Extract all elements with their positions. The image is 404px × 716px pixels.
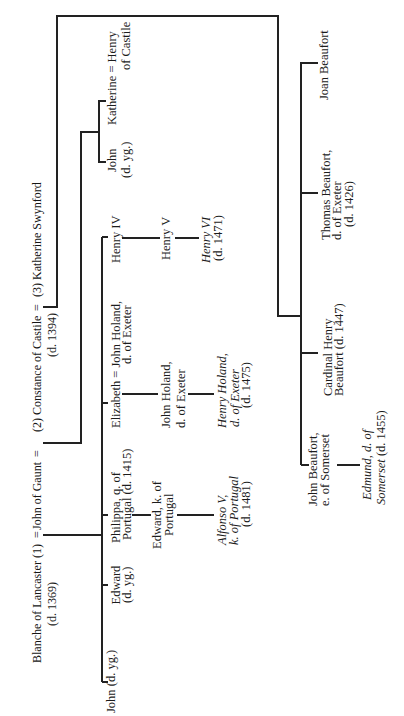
- constance-connector: [80, 131, 82, 444]
- john-dyg-constance-name: John: [107, 148, 118, 172]
- marriage-sign-2: =: [30, 450, 44, 457]
- blanche-descent-line: [43, 534, 102, 536]
- edward-to-alfonso-line: [177, 514, 214, 516]
- constance-of-castile: (2) Constance of Castile: [30, 316, 44, 432]
- edward-dyg-note: (d. yg.): [122, 567, 133, 603]
- elizabeth-to-john-holand-line: [122, 393, 158, 395]
- katherine-swynford: (3) Katherine Swynford: [30, 182, 44, 297]
- alfonso-line-1: Alfonso V,: [217, 495, 228, 545]
- edward-portugal-line-2: Portugal: [164, 494, 175, 536]
- john-beaufort-line-1: John Beaufort,: [308, 432, 319, 506]
- katherine-line-1: Katherine = Henry: [107, 31, 118, 125]
- constance-death-date: (d. 1394): [45, 313, 59, 357]
- tick-philippa: [102, 514, 108, 516]
- blanche-death-date: (d. 1369): [45, 582, 59, 626]
- tick-john-constance: [99, 161, 106, 163]
- edmund-title: Somerset: [374, 459, 388, 505]
- tick-katherine: [99, 100, 106, 102]
- philippa-line-2: Portugal (d. 1415): [122, 449, 133, 540]
- tick-henry-iv: [102, 236, 108, 238]
- blanche-of-lancaster: Blanche of Lancaster (1): [30, 544, 44, 663]
- john-to-henry-holand-line: [188, 393, 214, 395]
- henry-holand-death: (d. 1475): [241, 362, 252, 408]
- henry-beaufort-line-2: Beaufort (d. 1447): [334, 303, 345, 396]
- john-holand-line-1: John Holand,: [161, 361, 172, 428]
- henry-vi-death: (d. 1471): [213, 215, 224, 261]
- swynford-frame-3: [277, 15, 279, 317]
- henry-v: Henry V: [161, 217, 172, 260]
- beaufort-children-spine: [300, 63, 302, 466]
- henry-holand-line-1: Henry Holand,: [217, 353, 228, 428]
- philippa-to-edward-line: [132, 514, 151, 516]
- tick-elizabeth: [102, 402, 108, 404]
- constance-drop: [80, 131, 99, 133]
- swynford-frame-1: [56, 15, 58, 308]
- marriage-sign-3: =: [30, 304, 44, 311]
- john-of-gaunt: John of Gaunt: [30, 462, 44, 530]
- edmund-line-1: Edmund, d. of: [362, 430, 373, 500]
- henry-iv-to-henry-v-line: [122, 237, 160, 239]
- henry-vi: Henry VI: [201, 217, 212, 263]
- edmund-line-2: Somerset (d. 1455): [376, 410, 387, 505]
- constance-children-spine: [98, 100, 100, 163]
- thomas-beaufort-death: (d. 1426): [344, 181, 355, 227]
- genealogy-tree: Blanche of Lancaster (1) = John of Gaunt…: [0, 0, 404, 716]
- john-beaufort-to-edmund-line: [337, 464, 360, 466]
- edmund-death: (d. 1455): [374, 410, 388, 456]
- john-dyg-constance-note: (d. yg.): [121, 142, 132, 178]
- tick-john-beaufort: [301, 464, 309, 466]
- blanche-children-spine: [101, 237, 103, 682]
- alfonso-line-2: k. of Portugal: [229, 476, 240, 545]
- swynford-drop: [277, 315, 302, 317]
- john-holand-line-2: d. of Exeter: [176, 369, 187, 428]
- katherine-line-2: of Castile: [121, 22, 132, 70]
- elizabeth-line-2: d. of Exeter: [122, 305, 133, 364]
- tick-henry-beaufort: [301, 352, 318, 354]
- tick-john: [102, 681, 108, 683]
- alfonso-death: (d. 1481): [241, 481, 252, 527]
- tick-edward: [102, 584, 108, 586]
- tick-joan: [301, 62, 318, 64]
- swynford-frame-2: [56, 15, 279, 17]
- henry-v-to-henry-vi-line: [175, 237, 199, 239]
- joan-beaufort: Joan Beaufort: [319, 30, 330, 100]
- john-beaufort-line-2: e. of Somerset: [320, 434, 331, 506]
- henry-iv: Henry IV: [111, 215, 122, 263]
- tick-thomas: [301, 192, 318, 194]
- constance-descent-line: [43, 442, 81, 444]
- marriage-sign-1: =: [30, 531, 44, 538]
